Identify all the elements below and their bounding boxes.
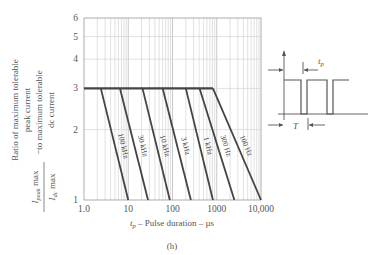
ylabel-line3: to maximum tolerable [34,70,44,149]
x-tick-label: 10,000 [248,204,274,214]
y-tick-label: 5 [73,32,78,42]
y-tick-labels: 123456 [73,13,78,205]
x-tick-labels: 1.010100100010,000 [78,204,274,214]
inset-T-label: T [293,121,299,131]
series-label: 1 kHz [202,136,215,156]
formula-denominator: Idc max [47,173,58,201]
ylabel-line2: peak current [22,87,32,132]
arrow-left-icon [309,123,313,127]
ylabel-line1: Ratio of maximum tolerable [10,59,20,161]
figure-caption: (h) [167,241,178,251]
inset-tp-label: tp [318,56,325,67]
x-tick-label: 100 [165,204,180,214]
x-tick-label: 1.0 [78,204,90,214]
y-tick-label: 6 [73,13,78,23]
pulse-train [284,80,349,114]
formula-numerator: Ipeak max [30,170,41,205]
series-label: 3 kHz [179,136,192,156]
grid [84,18,261,200]
formula-dash: – [32,149,42,155]
ylabel-line4: dc current [46,91,56,128]
y-tick-label: 2 [73,125,78,135]
y-tick-label: 4 [73,54,78,64]
arrow-left-icon [304,68,308,72]
chart-figure: 100 kHz30 kHz10 kHz3 kHz1 kHz300 Hz100 H… [0,0,384,255]
arrow-up-icon [282,50,286,56]
x-tick-label: 10 [124,204,134,214]
arrow-right-icon [279,68,283,72]
series-label: 30 kHz [136,134,150,158]
x-tick-label: 1000 [207,204,226,214]
series-line [213,88,261,200]
x-axis-title: tp – Pulse duration – µs [130,218,215,229]
y-axis-title: Ratio of maximum tolerable peak current … [10,59,56,161]
y-tick-label: 3 [73,83,78,93]
y-axis-formula: Ipeak max Idc max – [30,149,58,212]
arrow-right-icon [279,123,283,127]
